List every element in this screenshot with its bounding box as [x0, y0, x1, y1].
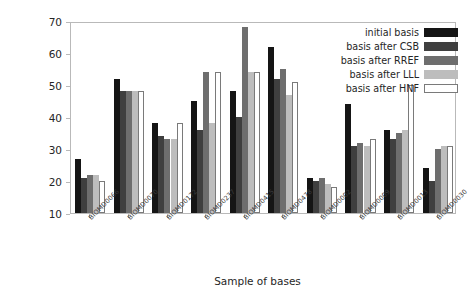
- bar-group: [75, 23, 105, 213]
- legend-item-label: basis after LLL: [350, 69, 419, 80]
- legend-item: basis after CSB: [341, 40, 458, 53]
- bar: [215, 72, 221, 213]
- legend-swatch: [424, 28, 458, 37]
- legend-swatch: [424, 56, 458, 65]
- legend-swatch: [424, 70, 458, 79]
- y-tick-label: 10: [0, 208, 70, 220]
- legend-item: basis after RREF: [341, 54, 458, 67]
- x-axis-title: Sample of bases: [60, 275, 455, 287]
- legend-item: initial basis: [341, 26, 458, 39]
- y-tick-label: 70: [0, 16, 70, 28]
- y-tick-label: 50: [0, 80, 70, 92]
- bar: [408, 85, 414, 213]
- legend-item-label: basis after RREF: [341, 55, 419, 66]
- y-tick-label: 60: [0, 48, 70, 60]
- bar: [254, 72, 260, 213]
- bar: [138, 91, 144, 213]
- legend-item-label: initial basis: [365, 27, 419, 38]
- y-tick-label: 30: [0, 144, 70, 156]
- legend-item: basis after LLL: [341, 68, 458, 81]
- legend-item-label: basis after CSB: [346, 41, 419, 52]
- legend-item: basis after HNF: [341, 82, 458, 95]
- legend-item-label: basis after HNF: [346, 83, 419, 94]
- y-tick-mark: [66, 214, 70, 215]
- legend-swatch: [424, 84, 458, 93]
- y-tick-label: 20: [0, 176, 70, 188]
- chart-legend: initial basisbasis after CSBbasis after …: [341, 26, 458, 95]
- bar: [292, 82, 298, 213]
- legend-swatch: [424, 42, 458, 51]
- y-tick-label: 40: [0, 112, 70, 124]
- bar-chart-figure: Number of nonzero coefficients 102030405…: [0, 0, 472, 302]
